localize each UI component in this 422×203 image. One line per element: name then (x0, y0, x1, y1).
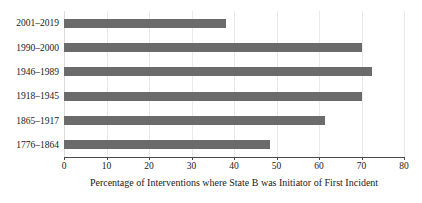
category-label: 1776–1864 (16, 139, 59, 151)
bar-row (64, 11, 404, 35)
x-tick-label: 30 (187, 160, 197, 172)
category-label: 1918–1945 (16, 90, 59, 102)
bar (64, 92, 362, 101)
bar (64, 19, 226, 28)
bar (64, 116, 325, 125)
category-axis: 2001–20191990–20001946–19891918–19451865… (0, 0, 59, 203)
plot-area (64, 11, 404, 157)
x-axis-title: Percentage of Interventions where State … (64, 176, 404, 189)
bar-row (64, 60, 404, 84)
x-tick-label: 80 (399, 160, 409, 172)
x-tick-label: 50 (272, 160, 282, 172)
x-tick-label: 20 (144, 160, 154, 172)
x-tick-label: 10 (102, 160, 112, 172)
gridline (404, 11, 405, 157)
category-label: 1865–1917 (16, 115, 59, 127)
bar (64, 43, 362, 52)
x-tick-label: 40 (229, 160, 239, 172)
x-tick-label: 60 (314, 160, 324, 172)
category-label: 1946–1989 (16, 66, 59, 78)
category-label: 2001–2019 (16, 17, 59, 29)
bar-chart-figure: 2001–20191990–20001946–19891918–19451865… (0, 0, 422, 203)
bar-row (64, 108, 404, 132)
bar-row (64, 84, 404, 108)
x-tick-label: 70 (357, 160, 367, 172)
bar (64, 67, 372, 76)
category-label: 1990–2000 (16, 42, 59, 54)
bar-row (64, 35, 404, 59)
bar (64, 140, 270, 149)
x-tick-label: 0 (62, 160, 67, 172)
bar-row (64, 133, 404, 157)
